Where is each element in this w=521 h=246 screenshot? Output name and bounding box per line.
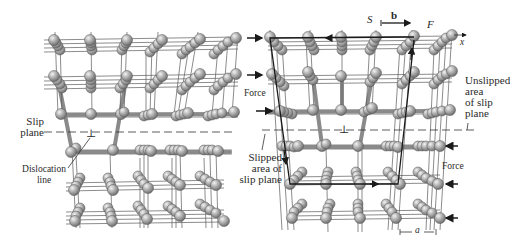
slipped-area-leader [262, 134, 265, 150]
right-dislocation-symbol: ⊥ [339, 124, 349, 135]
dislocation-diagram [0, 0, 521, 246]
dislocation-line-label-line1: Dislocation [14, 164, 74, 175]
left-atoms [49, 33, 242, 227]
slipped-area-label: Slipped area of slip plane [232, 152, 282, 185]
lattice-spacing-label: a [415, 226, 420, 236]
slipped-area-line3: slip plane [232, 174, 282, 185]
right-horizontal-bonds [268, 36, 452, 220]
left-vertical-bonds [55, 32, 238, 228]
left-lattice [44, 32, 242, 228]
unslipped-area-label: Unslipped area of slip plane [465, 75, 510, 119]
right-atoms [265, 30, 458, 224]
dislocation-line-label: Dislocation line [14, 164, 74, 186]
left-horizontal-bonds [44, 37, 238, 224]
burgers-vector-label: b [391, 10, 397, 21]
right-lattice [247, 20, 476, 235]
slip-plane-label: Slip plane [18, 116, 44, 138]
force-label-left: Force [244, 89, 266, 99]
dislocation-line-label-line2: line [14, 175, 74, 186]
left-dislocation-symbol: ⊥ [86, 128, 96, 139]
unslipped-area-line4: plane [465, 108, 510, 119]
finish-point-label: F [427, 19, 434, 30]
force-arrows-right [446, 146, 458, 218]
force-label-right: Force [442, 162, 464, 172]
x-axis-label: x [460, 38, 464, 48]
unslipped-area-leader [467, 123, 468, 130]
slip-plane-label-line2: plane [18, 127, 44, 138]
start-point-label: S [367, 14, 373, 25]
